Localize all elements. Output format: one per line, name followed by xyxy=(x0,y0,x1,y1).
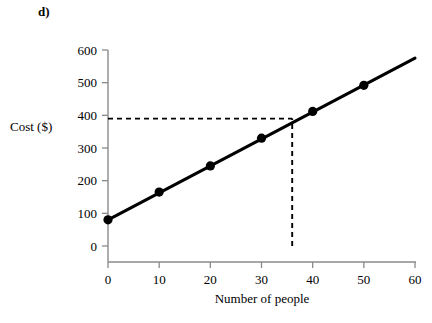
x-axis-tick-labels: 0102030405060 xyxy=(105,272,422,287)
data-point-marker xyxy=(359,81,368,90)
y-tick-label: 400 xyxy=(78,108,98,123)
y-tick-label: 600 xyxy=(78,43,98,58)
y-tick-label: 200 xyxy=(78,173,98,188)
data-point-marker xyxy=(155,188,164,197)
data-point-marker xyxy=(103,215,112,224)
x-tick-label: 0 xyxy=(105,272,112,287)
data-point-marker xyxy=(257,134,266,143)
figure-root: d) Cost ($) Number of people 01002003004… xyxy=(0,0,432,323)
line-chart-plot: 0100200300400500600 0102030405060 xyxy=(0,0,432,323)
y-axis-tick-labels: 0100200300400500600 xyxy=(78,43,98,254)
data-point-marker xyxy=(308,107,317,116)
x-tick-label: 10 xyxy=(153,272,166,287)
y-tick-label: 500 xyxy=(78,75,98,90)
x-axis-ticks xyxy=(108,262,415,268)
y-tick-label: 100 xyxy=(78,206,98,221)
y-tick-label: 300 xyxy=(78,141,98,156)
data-point-marker xyxy=(206,161,215,170)
x-tick-label: 30 xyxy=(255,272,268,287)
x-tick-label: 40 xyxy=(306,272,319,287)
x-tick-label: 50 xyxy=(357,272,370,287)
y-tick-label: 0 xyxy=(91,239,98,254)
x-tick-label: 20 xyxy=(204,272,217,287)
x-tick-label: 60 xyxy=(409,272,422,287)
